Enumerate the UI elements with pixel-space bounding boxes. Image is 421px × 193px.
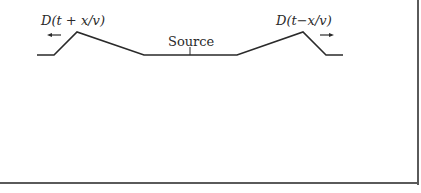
frame-bottom-border [0,182,419,184]
left-arrow-icon [47,33,61,37]
right-wave-label: D(t−x/v) [276,14,332,27]
wave-diagram: D(t + x/v) D(t−x/v) Source [0,0,421,193]
right-arrow-icon [320,33,334,37]
wave-profile-drawing [0,0,421,193]
frame-right-border [417,0,419,185]
source-label: Source [168,35,214,48]
left-wave-label: D(t + x/v) [41,14,105,27]
